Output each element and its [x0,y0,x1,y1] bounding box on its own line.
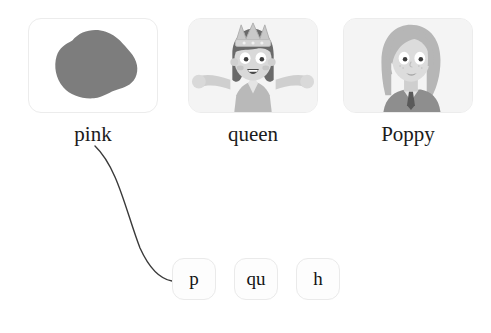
letter-tile-qu-label: qu [247,268,266,290]
word-label-poppy: Poppy [343,124,473,145]
exercise-canvas: pink queen Poppy p qu h [0,0,491,333]
letter-tile-p-label: p [189,268,199,290]
queen-character-icon [189,19,317,112]
connector-line-pink-to-p [95,146,172,281]
pink-blob-icon [29,19,157,112]
poppy-character-icon [344,19,472,112]
picture-card-queen[interactable] [188,18,318,113]
picture-card-poppy[interactable] [343,18,473,113]
letter-tile-h-label: h [313,268,323,290]
picture-card-pink[interactable] [28,18,158,113]
letter-tile-h[interactable]: h [296,258,340,300]
word-label-pink: pink [28,124,158,145]
letter-tile-p[interactable]: p [172,258,216,300]
word-label-queen: queen [188,124,318,145]
letter-tile-qu[interactable]: qu [234,258,278,300]
